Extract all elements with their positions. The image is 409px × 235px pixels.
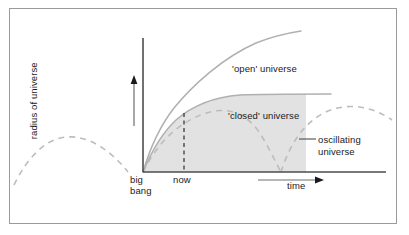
closed-universe-label: 'closed' universe: [228, 110, 299, 122]
oscillating-universe-label-line1: oscillating: [318, 134, 361, 146]
oscillating-universe-label-line2: universe: [318, 146, 361, 158]
big-bang-label-line1: big: [130, 174, 152, 185]
big-bang-label-line2: bang: [130, 185, 152, 196]
now-marker-label: now: [173, 174, 191, 186]
oscillating-universe-label: oscillating universe: [318, 134, 361, 157]
diagram-canvas: [0, 0, 409, 235]
closed-universe-fill: [143, 94, 306, 172]
open-universe-label: 'open' universe: [232, 63, 297, 75]
cosmology-diagram: radius of universe time big bang now 'op…: [0, 0, 409, 235]
y-axis-label: radius of universe: [28, 46, 40, 156]
big-bang-label: big bang: [130, 174, 152, 196]
x-axis-label: time: [287, 180, 305, 192]
y-axis-arrow: [131, 75, 138, 126]
